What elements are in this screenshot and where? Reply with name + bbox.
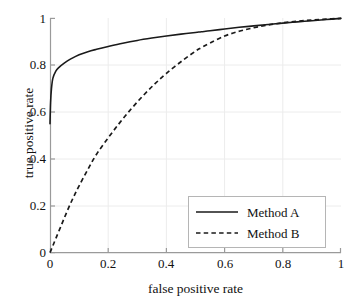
x-tick-label-2: 0.4: [158, 256, 174, 272]
x-tick-label-4: 0.8: [275, 256, 291, 272]
y-tick-label-5: 1: [22, 11, 46, 27]
x-tick-label-3: 0.6: [217, 256, 233, 272]
x-axis-title: false positive rate: [50, 281, 341, 297]
plot-canvas: [0, 0, 357, 305]
x-tick-label-5: 1: [338, 256, 345, 272]
legend-label-method-a: Method A: [247, 205, 299, 221]
x-tick-label-0: 0: [47, 256, 54, 272]
legend-label-method-b: Method B: [247, 226, 299, 242]
y-axis-title: true positive rate: [21, 88, 37, 179]
y-tick-label-0: 0: [22, 245, 46, 261]
x-tick-label-1: 0.2: [100, 256, 116, 272]
roc-curve-figure: 0 0.2 0.4 0.6 0.8 1 0 0.2 0.4 0.6 0.8 1 …: [0, 0, 357, 305]
y-axis-title-wrapper: true positive rate: [19, 43, 39, 223]
